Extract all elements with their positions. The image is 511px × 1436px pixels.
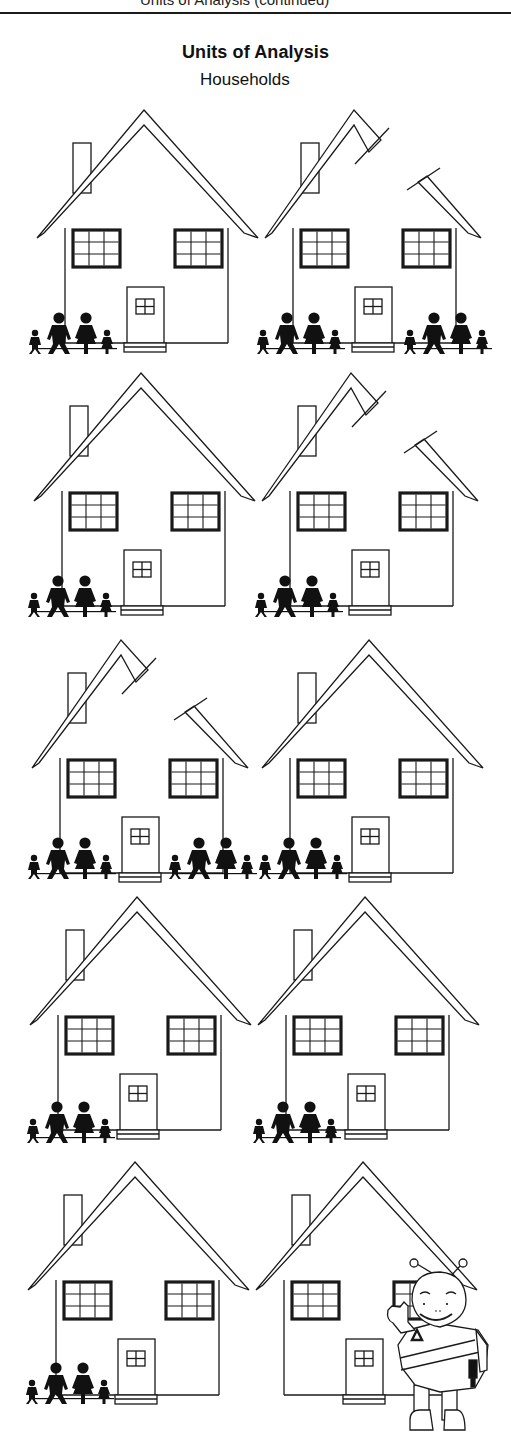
house-row2-right <box>255 373 478 617</box>
house-row4-right <box>253 897 479 1143</box>
house-row1-right <box>257 110 492 354</box>
house-row2-left <box>28 373 255 617</box>
households-illustration <box>0 0 511 1436</box>
house-row5-left <box>26 1162 249 1404</box>
house-row3-left <box>28 640 257 882</box>
house-row1-left <box>29 110 258 354</box>
house-row3-right <box>259 640 483 882</box>
house-row4-left <box>27 897 251 1143</box>
